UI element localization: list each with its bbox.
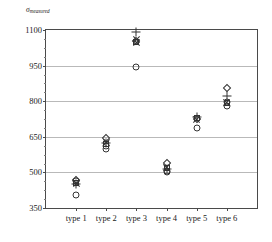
y-axis-tick-label: 800	[29, 97, 42, 106]
data-point-plus	[102, 138, 111, 147]
y-axis-tick-mark	[43, 101, 46, 102]
x-axis-tick-mark	[136, 208, 137, 211]
y-axis-tick-label: 650	[29, 133, 42, 142]
y-axis-minor-tick	[44, 190, 46, 191]
x-axis-tick-label: type 5	[186, 214, 207, 223]
data-point-diamond	[132, 36, 140, 44]
x-axis-tick-label: type 2	[96, 214, 117, 223]
data-point-cross	[193, 116, 201, 124]
data-point-cross	[102, 138, 110, 146]
x-axis-tick-label: type 4	[156, 214, 177, 223]
x-axis-tick-mark	[106, 208, 107, 211]
y-axis-tick-label: 1100	[25, 26, 42, 35]
data-point-cross	[132, 38, 140, 46]
data-point-cross	[132, 35, 140, 43]
x-axis-tick-mark	[227, 208, 228, 211]
data-point-circle	[193, 125, 200, 132]
y-axis-title-subscript: measured	[30, 8, 50, 14]
data-point-square	[133, 39, 139, 45]
data-point-plus	[222, 92, 231, 101]
data-point-square	[103, 141, 109, 147]
data-point-circle	[103, 145, 110, 152]
data-point-cross	[72, 180, 80, 188]
y-axis-minor-tick	[44, 164, 46, 165]
x-axis-tick-label: type 1	[66, 214, 87, 223]
y-axis-minor-tick	[44, 146, 46, 147]
data-point-plus	[72, 180, 81, 189]
data-point-circle	[133, 63, 140, 70]
data-point-circle	[73, 191, 80, 198]
y-axis-minor-tick	[44, 119, 46, 120]
data-point-square	[164, 165, 170, 171]
x-axis-tick-mark	[76, 208, 77, 211]
y-axis-title: σmeasured	[26, 6, 50, 14]
gridline	[46, 172, 257, 173]
data-point-plus	[132, 28, 141, 37]
y-axis-minor-tick	[44, 199, 46, 200]
gridline	[46, 101, 257, 102]
data-point-plus	[192, 112, 201, 121]
data-point-square	[73, 180, 79, 186]
data-point-circle	[103, 142, 110, 149]
y-axis-tick-mark	[43, 30, 46, 31]
y-axis-minor-tick	[44, 128, 46, 129]
y-axis-minor-tick	[44, 83, 46, 84]
data-point-circle	[223, 99, 230, 106]
data-point-diamond	[162, 159, 170, 167]
data-point-diamond	[192, 115, 200, 123]
data-point-cross	[163, 163, 171, 171]
y-axis-minor-tick	[44, 57, 46, 58]
plot-area: 3505006508009501100type 1type 2type 3typ…	[45, 29, 258, 209]
data-point-diamond	[223, 84, 231, 92]
y-axis-minor-tick	[44, 75, 46, 76]
y-axis-minor-tick	[44, 92, 46, 93]
y-axis-tick-mark	[43, 208, 46, 209]
y-axis-tick-label: 950	[29, 61, 42, 70]
scatter-chart: σmeasured 3505006508009501100type 1type …	[0, 0, 272, 242]
data-point-square	[194, 115, 200, 121]
y-axis-minor-tick	[44, 110, 46, 111]
y-axis-minor-tick	[44, 48, 46, 49]
x-axis-tick-label: type 6	[216, 214, 237, 223]
data-point-circle	[223, 102, 230, 109]
x-axis-tick-mark	[197, 208, 198, 211]
y-axis-tick-label: 500	[29, 168, 42, 177]
y-axis-minor-tick	[44, 155, 46, 156]
data-point-circle	[73, 178, 80, 185]
data-point-diamond	[72, 175, 80, 183]
y-axis-tick-mark	[43, 137, 46, 138]
y-axis-tick-label: 350	[29, 204, 42, 213]
y-axis-minor-tick	[44, 39, 46, 40]
gridline	[46, 137, 257, 138]
x-axis-tick-mark	[167, 208, 168, 211]
data-point-diamond	[102, 134, 110, 142]
y-axis-tick-mark	[43, 66, 46, 67]
y-axis-tick-mark	[43, 172, 46, 173]
x-axis-tick-label: type 3	[126, 214, 147, 223]
data-point-cross	[223, 98, 231, 106]
gridline	[46, 66, 257, 67]
y-axis-minor-tick	[44, 181, 46, 182]
